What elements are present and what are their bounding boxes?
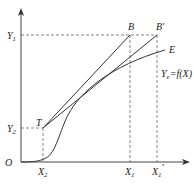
x1-prime-label: X1′ [151, 162, 165, 179]
y1-label: Y1 [7, 30, 16, 43]
point-T-label: T [36, 117, 43, 128]
curve-ye [21, 50, 165, 162]
curve-label: Ye=f(X) [161, 68, 193, 81]
point-B-prime-label: B′ [156, 21, 165, 32]
y2-label: Y2 [7, 123, 17, 136]
origin-label: O [5, 157, 12, 168]
point-B-label: B [128, 21, 134, 32]
diagram-canvas: O Y1 Y2 X2 X1 X1′ T B B′ E Ye=f(X) [0, 0, 194, 186]
point-E-label: E [168, 44, 175, 55]
x1-label: X1 [124, 166, 135, 179]
x2-label: X2 [37, 166, 48, 179]
line-TB-prime [43, 35, 157, 128]
line-TB [43, 35, 130, 128]
